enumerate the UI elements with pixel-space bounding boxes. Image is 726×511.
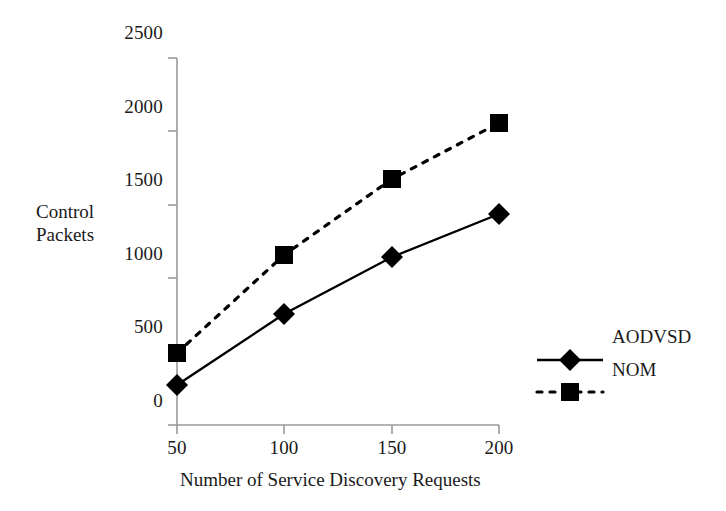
y-axis-ticks [168,58,177,425]
y-tick-label-1000: 1000 [111,243,163,265]
y-axis-title-line1: Control [36,200,94,223]
y-tick-label-0: 0 [111,390,163,412]
legend-label-aodvsd: AODVSD [612,326,691,348]
y-tick-label-500: 500 [111,316,163,338]
series-line-aodvsd [177,214,499,385]
y-tick-label-1500: 1500 [111,169,163,191]
chart-figure: 2500 2000 1500 1000 500 0 50 100 150 200… [0,0,726,511]
x-tick-label-50: 50 [157,437,197,459]
x-tick-label-150: 150 [372,437,412,459]
legend-sample-aodvsd [537,349,603,371]
legend-label-nom: NOM [612,359,656,381]
legend-sample-nom [537,383,603,401]
y-tick-label-2000: 2000 [111,96,163,118]
x-axis-ticks [177,425,499,434]
y-axis-title-line2: Packets [36,223,94,246]
series-markers-nom [168,114,508,362]
chart-plot-area [0,0,726,511]
x-tick-label-100: 100 [264,437,304,459]
x-tick-label-200: 200 [479,437,519,459]
y-tick-label-2500: 2500 [111,22,163,44]
x-axis-title: Number of Service Discovery Requests [180,469,481,491]
series-markers-aodvsd [166,203,510,396]
series-line-nom [177,123,499,353]
